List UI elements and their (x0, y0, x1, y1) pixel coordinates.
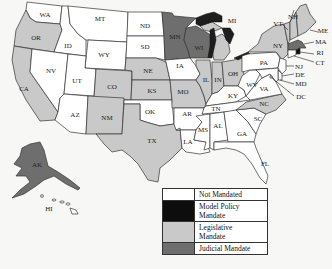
legend-swatch-model-policy-mandate (163, 201, 195, 221)
label-NJ: NJ (295, 63, 303, 71)
label-AL: AL (213, 122, 222, 130)
label-NE: NE (143, 67, 152, 75)
legend-label: Not Mandated (195, 189, 244, 200)
label-DC: DC (296, 93, 306, 101)
state-AK (12, 142, 80, 198)
legend-item-legislative-mandate: Legislative Mandate (163, 222, 267, 243)
state-HI-island-4 (66, 203, 70, 205)
leader-MA (304, 42, 314, 44)
state-MA (288, 40, 306, 50)
leader-MD (280, 80, 294, 84)
state-CT (288, 50, 296, 58)
leader-CT (294, 56, 314, 62)
leader-DE (282, 74, 294, 76)
label-WV: WV (246, 81, 258, 89)
legend-item-not-mandated: Not Mandated (163, 189, 267, 201)
label-TN: TN (211, 105, 220, 113)
state-FL (214, 142, 268, 184)
label-NH: NH (288, 13, 298, 21)
state-DC (270, 76, 272, 78)
legend-swatch-not-mandated (163, 189, 195, 200)
label-WA: WA (40, 11, 51, 19)
label-WI: WI (195, 44, 205, 52)
label-NV: NV (46, 67, 56, 75)
label-MN: MN (169, 33, 180, 41)
map-legend: Not Mandated Model Policy Mandate Legisl… (162, 188, 268, 255)
legend-swatch-legislative-mandate (163, 222, 195, 242)
label-RI: RI (317, 49, 325, 57)
label-NC: NC (259, 100, 269, 108)
label-CT: CT (316, 59, 326, 67)
label-KY: KY (228, 92, 238, 100)
label-AR: AR (182, 110, 192, 118)
label-LA: LA (183, 138, 192, 146)
label-IA: IA (176, 62, 183, 70)
label-OH: OH (228, 70, 238, 78)
label-DE: DE (295, 71, 304, 79)
label-SC: SC (254, 115, 263, 123)
leader-RI (300, 52, 314, 54)
label-CA: CA (19, 85, 29, 93)
label-MI: MI (228, 17, 237, 25)
label-MS: MS (198, 126, 208, 134)
state-HI-island-2 (52, 199, 56, 201)
legend-label: Model Policy Mandate (195, 201, 261, 221)
state-HI-island-3 (60, 201, 65, 203)
label-PA: PA (260, 59, 268, 67)
label-HI: HI (45, 205, 53, 213)
label-ID: ID (64, 42, 71, 50)
label-MA: MA (315, 38, 326, 46)
label-IN: IN (214, 76, 221, 84)
legend-item-model-policy-mandate: Model Policy Mandate (163, 201, 267, 222)
state-ME (296, 4, 316, 36)
label-OK: OK (145, 108, 155, 116)
label-IL: IL (203, 76, 210, 84)
label-MT: MT (95, 15, 106, 23)
label-WY: WY (98, 51, 110, 59)
label-GA: GA (237, 130, 247, 138)
label-AK: AK (32, 161, 42, 169)
label-ND: ND (140, 22, 150, 30)
legend-label: Judicial Mandate (195, 243, 252, 254)
label-TX: TX (147, 137, 156, 145)
label-ME: ME (318, 27, 329, 35)
label-VA: VA (259, 85, 268, 93)
label-FL: FL (261, 160, 269, 168)
state-HI-island-5 (70, 208, 78, 214)
state-HI-island-1 (41, 195, 44, 198)
legend-item-judicial-mandate: Judicial Mandate (163, 243, 267, 254)
label-UT: UT (72, 77, 82, 85)
legend-swatch-judicial-mandate (163, 243, 195, 254)
label-AZ: AZ (70, 111, 79, 119)
label-NY: NY (273, 42, 283, 50)
label-OR: OR (31, 34, 41, 42)
legend-label: Legislative Mandate (195, 222, 251, 242)
label-VT: VT (273, 20, 283, 28)
label-KS: KS (148, 87, 157, 95)
label-CO: CO (107, 83, 117, 91)
label-NM: NM (101, 114, 113, 122)
label-MD: MD (295, 80, 306, 88)
label-MO: MO (177, 88, 188, 96)
label-SD: SD (141, 43, 150, 51)
